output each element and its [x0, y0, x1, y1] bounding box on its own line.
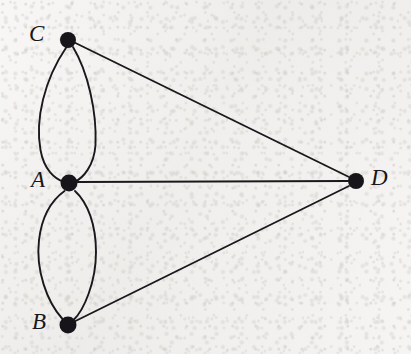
vertex-label-c: C [29, 22, 44, 45]
edge-c-a-right [73, 47, 96, 182]
vertex-node-d [348, 173, 364, 189]
vertex-label-b: B [32, 310, 46, 333]
edge-b-d [76, 186, 350, 321]
edge-c-d [76, 43, 350, 177]
edge-c-a-left [39, 47, 67, 182]
graph-canvas [0, 0, 411, 354]
vertex-node-c [60, 32, 76, 48]
figure-root: C A B D [0, 0, 411, 354]
vertex-label-d: D [371, 166, 388, 189]
vertex-label-a: A [31, 168, 45, 191]
edge-a-b-right [74, 191, 97, 320]
edges-group [38, 43, 349, 321]
vertex-node-a [61, 175, 78, 192]
edge-a-d [78, 181, 349, 182]
vertex-node-b [60, 317, 77, 334]
edge-a-b-left [38, 191, 64, 319]
